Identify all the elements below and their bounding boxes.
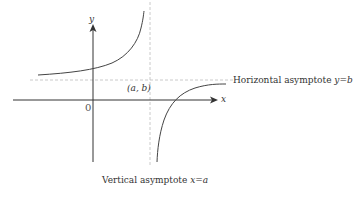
horizontal-asymptote-label: Horizontal asymptote y=b [233, 76, 353, 85]
origin-label: 0 [85, 103, 91, 113]
curve-branch-lower-right [157, 84, 226, 162]
vertical-asymptote-equation: x=a [190, 175, 208, 185]
horizontal-asymptote-equation: y=b [334, 75, 352, 85]
horizontal-asymptote-text: Horizontal asymptote [233, 75, 334, 85]
y-axis-label: y [89, 15, 94, 24]
point-ab-label: (a, b) [127, 84, 151, 93]
vertical-asymptote-text: Vertical asymptote [102, 175, 190, 185]
vertical-asymptote-label: Vertical asymptote x=a [102, 176, 208, 185]
x-axis-label: x [221, 95, 226, 104]
